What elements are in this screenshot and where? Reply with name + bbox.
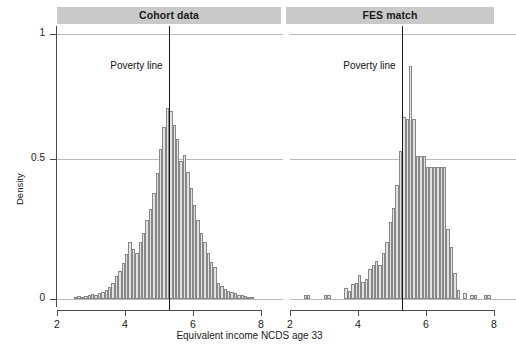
x-tick-label: 8 xyxy=(251,318,271,330)
x-tick xyxy=(261,310,262,316)
x-axis-line xyxy=(57,310,261,311)
gridline-y-1-p0 xyxy=(57,34,283,35)
x-tick-label: 4 xyxy=(348,318,368,330)
x-tick xyxy=(426,310,427,316)
y-tick-label: 1 xyxy=(9,27,45,38)
x-tick xyxy=(290,310,291,316)
x-tick-label: 2 xyxy=(47,318,67,330)
gridline-y-0-p1 xyxy=(290,299,516,300)
histogram-bar xyxy=(463,293,466,299)
y-tick xyxy=(50,159,57,160)
y-axis-title: Density xyxy=(14,173,25,205)
x-axis-title: Equivalent income NCDS age 33 xyxy=(0,330,499,341)
x-tick-label: 2 xyxy=(280,318,300,330)
histogram-bar xyxy=(457,290,460,299)
poverty-line-label: Poverty line xyxy=(83,60,163,71)
x-tick xyxy=(193,310,194,316)
poverty-line xyxy=(402,26,403,310)
histogram-bar xyxy=(307,295,310,299)
gridline-y-1-p1 xyxy=(290,34,516,35)
x-axis-line xyxy=(290,310,494,311)
x-tick-label: 4 xyxy=(115,318,135,330)
histogram-bar xyxy=(474,295,477,299)
histogram-bar xyxy=(327,295,330,299)
x-tick xyxy=(494,310,495,316)
poverty-line xyxy=(169,26,170,310)
x-tick xyxy=(125,310,126,316)
y-axis-line xyxy=(56,26,57,307)
y-tick xyxy=(50,34,57,35)
gridline-y-0-p0 xyxy=(57,299,283,300)
histogram-bar xyxy=(251,297,254,299)
histogram-bar xyxy=(487,295,490,299)
x-tick-label: 6 xyxy=(183,318,203,330)
x-tick-label: 6 xyxy=(416,318,436,330)
x-tick xyxy=(57,310,58,316)
panel-title: FES match xyxy=(286,7,494,24)
panel-title: Cohort data xyxy=(57,7,281,24)
y-tick-label: 0.5 xyxy=(9,152,45,163)
x-tick-label: 8 xyxy=(484,318,504,330)
poverty-line-label: Poverty line xyxy=(316,60,396,71)
x-tick xyxy=(358,310,359,316)
y-tick xyxy=(50,299,57,300)
y-tick-label: 0 xyxy=(9,292,45,303)
